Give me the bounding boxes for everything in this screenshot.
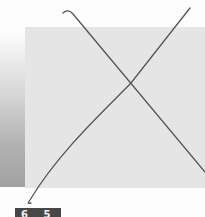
x-mark-icon bbox=[0, 0, 205, 217]
cross-stroke-descending bbox=[63, 11, 205, 172]
image-canvas: 6 5 bbox=[0, 0, 205, 217]
caption-label: 6 5 bbox=[15, 208, 61, 217]
cross-stroke-ascending bbox=[28, 8, 190, 203]
